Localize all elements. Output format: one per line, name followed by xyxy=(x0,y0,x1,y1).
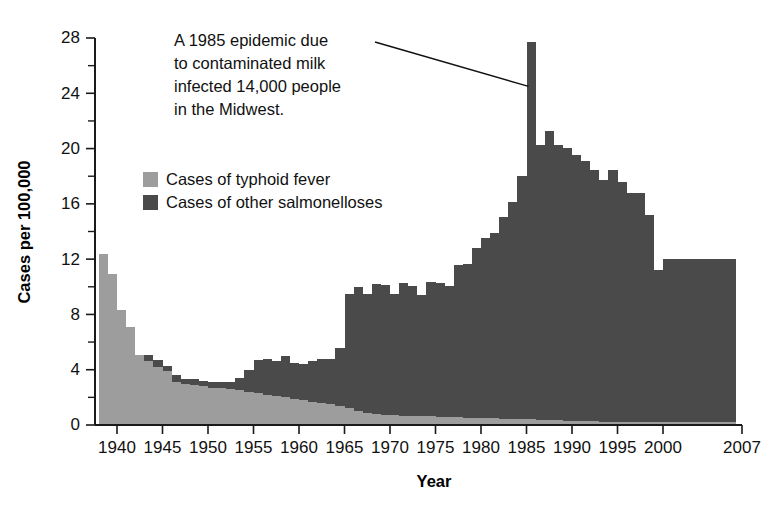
bar-salmonelloses xyxy=(581,161,590,421)
x-tick-label: 1950 xyxy=(189,438,227,457)
bar-salmonelloses xyxy=(390,294,399,416)
x-tick-label: 1970 xyxy=(371,438,409,457)
bar-typhoid xyxy=(399,416,408,425)
bar-salmonelloses xyxy=(163,366,172,372)
bar-typhoid xyxy=(108,274,117,425)
bar-typhoid xyxy=(426,416,435,425)
annotation-leader-line xyxy=(375,42,529,86)
bar-typhoid xyxy=(372,414,381,425)
annotation-line: infected 14,000 people xyxy=(174,77,341,95)
bar-typhoid xyxy=(445,417,454,425)
bar-salmonelloses xyxy=(727,259,736,422)
bar-typhoid xyxy=(335,406,344,425)
annotation-line: in the Midwest. xyxy=(174,100,284,118)
bar-salmonelloses xyxy=(663,259,727,422)
y-tick-label: 24 xyxy=(61,84,80,103)
bar-typhoid xyxy=(454,417,463,425)
x-tick-label: 1985 xyxy=(508,438,546,457)
bar-salmonelloses xyxy=(217,382,226,388)
legend-swatch xyxy=(143,195,158,210)
bar-salmonelloses xyxy=(372,284,381,414)
bar-salmonelloses xyxy=(172,375,181,382)
y-tick-label: 12 xyxy=(61,250,80,269)
bar-salmonelloses xyxy=(426,282,435,416)
bar-typhoid xyxy=(308,402,317,425)
y-tick-label: 20 xyxy=(61,139,80,158)
bar-salmonelloses xyxy=(290,363,299,399)
bar-typhoid xyxy=(299,400,308,425)
bar-salmonelloses xyxy=(599,180,608,422)
bar-salmonelloses xyxy=(308,361,317,401)
bar-salmonelloses xyxy=(345,294,354,409)
x-tick-label: 2000 xyxy=(644,438,682,457)
bar-salmonelloses xyxy=(536,145,545,420)
legend-swatch xyxy=(143,172,158,187)
legend: Cases of typhoid feverCases of other sal… xyxy=(143,170,382,211)
x-tick-label: 1990 xyxy=(553,438,591,457)
bar-salmonelloses xyxy=(417,295,426,417)
bar-salmonelloses xyxy=(317,359,326,403)
bar-salmonelloses xyxy=(636,193,645,422)
x-tick-label: 1995 xyxy=(599,438,637,457)
x-axis-title: Year xyxy=(417,472,452,490)
bar-salmonelloses xyxy=(590,170,599,422)
bar-salmonelloses xyxy=(454,265,463,417)
bar-salmonelloses xyxy=(199,381,208,387)
bar-typhoid xyxy=(226,389,235,425)
bar-typhoid xyxy=(153,367,162,425)
bar-salmonelloses xyxy=(144,355,153,362)
bar-salmonelloses xyxy=(445,286,454,417)
bar-salmonelloses xyxy=(408,286,417,416)
x-tick-label: 1940 xyxy=(98,438,136,457)
bar-salmonelloses xyxy=(508,202,517,419)
x-tick-label: 1980 xyxy=(462,438,500,457)
bar-salmonelloses xyxy=(517,176,526,419)
bar-salmonelloses xyxy=(545,131,554,420)
x-tick-label: 1945 xyxy=(144,438,182,457)
annotation-line: to contaminated milk xyxy=(174,54,326,72)
bar-typhoid xyxy=(417,416,426,425)
bar-typhoid xyxy=(436,417,445,425)
bar-typhoid xyxy=(272,396,281,425)
y-tick-label: 0 xyxy=(71,415,80,434)
bar-salmonelloses xyxy=(399,283,408,416)
bar-typhoid xyxy=(290,399,299,425)
bar-typhoid xyxy=(326,404,335,425)
bar-typhoid xyxy=(408,416,417,425)
bar-salmonelloses xyxy=(363,294,372,413)
bar-salmonelloses xyxy=(235,378,244,390)
y-axis-title: Cases per 100,000 xyxy=(15,160,33,303)
bar-typhoid xyxy=(263,395,272,425)
legend-label: Cases of typhoid fever xyxy=(166,170,331,188)
bar-typhoid xyxy=(317,403,326,425)
bar-salmonelloses xyxy=(608,170,617,422)
bar-salmonelloses xyxy=(335,348,344,406)
bar-salmonelloses xyxy=(618,182,627,422)
bar-typhoid xyxy=(354,411,363,425)
bar-salmonelloses xyxy=(354,287,363,411)
bar-typhoid xyxy=(144,361,153,425)
legend-label: Cases of other salmonelloses xyxy=(166,193,382,211)
bar-salmonelloses xyxy=(226,382,235,389)
bar-salmonelloses xyxy=(244,370,253,392)
y-tick-labels: 0481216202428 xyxy=(61,28,95,434)
bar-salmonelloses xyxy=(299,364,308,400)
y-tick-label: 16 xyxy=(61,194,80,213)
bar-salmonelloses xyxy=(281,356,290,397)
bar-typhoid xyxy=(199,386,208,425)
bar-salmonelloses xyxy=(254,360,263,393)
bar-salmonelloses xyxy=(381,285,390,415)
bar-typhoid xyxy=(126,327,135,425)
bar-typhoid xyxy=(472,418,481,425)
y-tick-label: 4 xyxy=(71,360,80,379)
bar-typhoid xyxy=(172,382,181,425)
bar-typhoid xyxy=(281,397,290,425)
bar-typhoid xyxy=(99,254,108,425)
x-tick-label: 1965 xyxy=(326,438,364,457)
bar-salmonelloses xyxy=(463,264,472,417)
bar-salmonelloses xyxy=(481,238,490,418)
x-tick-labels: 1940194519501955196019651970197519801985… xyxy=(98,425,761,457)
bar-salmonelloses xyxy=(153,360,162,367)
y-tick-label: 8 xyxy=(71,305,80,324)
bar-typhoid xyxy=(363,413,372,425)
